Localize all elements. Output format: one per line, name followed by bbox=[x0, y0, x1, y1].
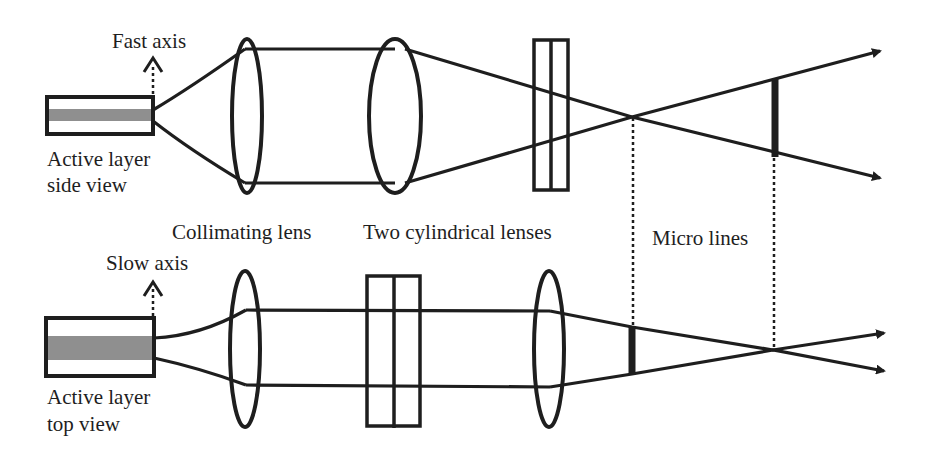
top-view-row bbox=[46, 271, 884, 428]
emitter-side-view bbox=[47, 97, 153, 134]
beam-top-ray-2 bbox=[550, 350, 884, 387]
side-view-row bbox=[47, 39, 880, 350]
top-view-label-line1: Active layer bbox=[47, 384, 150, 410]
beam-top-ray-1 bbox=[550, 311, 884, 350]
side-view-label-line2: side view bbox=[47, 172, 127, 198]
collimating-lens-top bbox=[230, 271, 260, 427]
cylindrical-lenses-top bbox=[367, 276, 420, 428]
emitter-top-view bbox=[46, 318, 154, 376]
focusing-lens-side bbox=[369, 39, 421, 193]
top-view-label-line2: top view bbox=[47, 411, 120, 437]
slow-axis-arrow-icon bbox=[144, 282, 162, 316]
cylindrical-lenses-side bbox=[534, 40, 568, 190]
side-view-label-line1: Active layer bbox=[47, 146, 150, 172]
collimating-lens-side bbox=[232, 39, 262, 193]
micro-lines-label: Micro lines bbox=[652, 225, 748, 251]
focusing-lens-top bbox=[534, 271, 564, 427]
fast-axis-label: Fast axis bbox=[112, 28, 186, 54]
beam-top-collimated bbox=[246, 310, 550, 387]
collimating-lens-label: Collimating lens bbox=[172, 219, 311, 245]
cylindrical-lenses-label: Two cylindrical lenses bbox=[363, 219, 552, 245]
slow-axis-label: Slow axis bbox=[106, 250, 188, 276]
fast-axis-arrow-icon bbox=[144, 58, 162, 94]
